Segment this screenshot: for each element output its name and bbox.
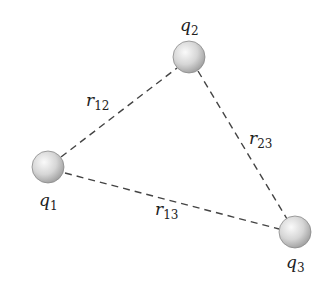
- charge-label-q1: q1: [39, 190, 58, 213]
- distance-label-r12: r12: [86, 90, 109, 113]
- charge-triangle-diagram: q2 q1 q3 r12 r23 r13: [0, 0, 333, 286]
- distance-line-r23: [198, 71, 287, 219]
- distance-line-r12: [61, 68, 177, 157]
- distance-label-r23: r23: [249, 128, 272, 151]
- charge-sphere-q3: [279, 216, 311, 248]
- charge-label-q2: q2: [180, 15, 199, 38]
- charge-sphere-q2: [173, 41, 205, 73]
- charge-label-q3: q3: [286, 252, 305, 275]
- charge-sphere-q1: [32, 151, 64, 183]
